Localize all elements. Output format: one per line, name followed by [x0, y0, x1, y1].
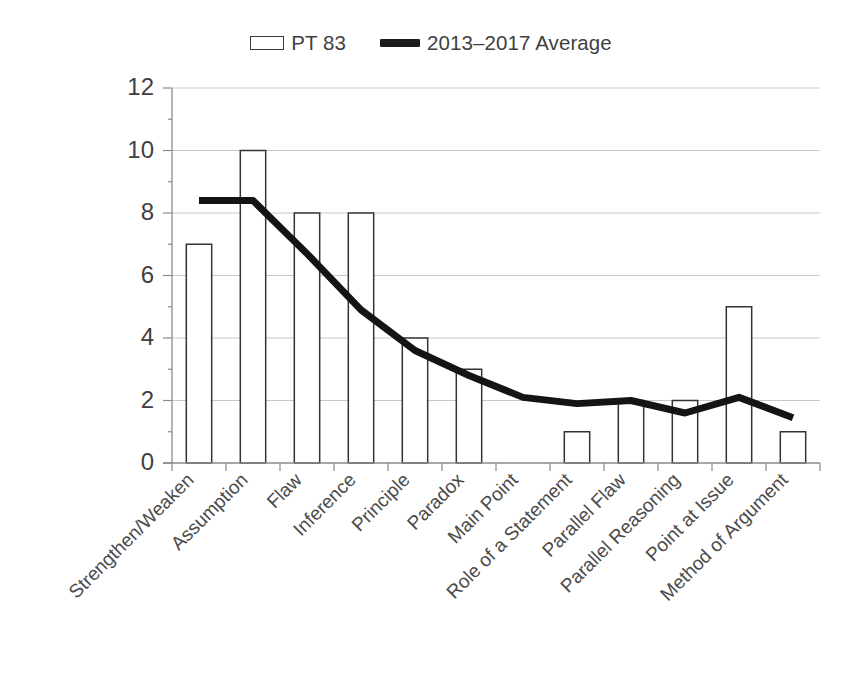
category-labels-group: Strengthen/WeakenAssumptionFlawInference…	[64, 468, 792, 604]
bar	[780, 432, 805, 463]
y-axis-labels-group: 024681012	[127, 73, 154, 475]
bar	[618, 401, 643, 464]
chart-svg: 024681012 Strengthen/WeakenAssumptionFla…	[0, 0, 862, 689]
bar	[726, 307, 751, 463]
chart-container: PT 83 2013–2017 Average 024681012 Streng…	[0, 0, 862, 689]
gridlines-group	[172, 88, 820, 401]
y-tick-label: 0	[141, 448, 154, 475]
bar	[564, 432, 589, 463]
category-label: Principle	[347, 469, 413, 535]
plot-area: 024681012 Strengthen/WeakenAssumptionFla…	[0, 0, 862, 689]
y-tick-label: 12	[127, 73, 154, 100]
y-tick-label: 4	[141, 323, 154, 350]
y-tick-label: 8	[141, 198, 154, 225]
y-tick-label: 2	[141, 386, 154, 413]
bar	[456, 369, 481, 463]
y-tick-label: 10	[127, 136, 154, 163]
average-line-group	[199, 201, 793, 418]
bar	[186, 244, 211, 463]
bar	[348, 213, 373, 463]
bars-group	[186, 151, 805, 464]
y-tick-label: 6	[141, 261, 154, 288]
category-label: Flaw	[263, 469, 306, 512]
average-line	[199, 201, 793, 418]
